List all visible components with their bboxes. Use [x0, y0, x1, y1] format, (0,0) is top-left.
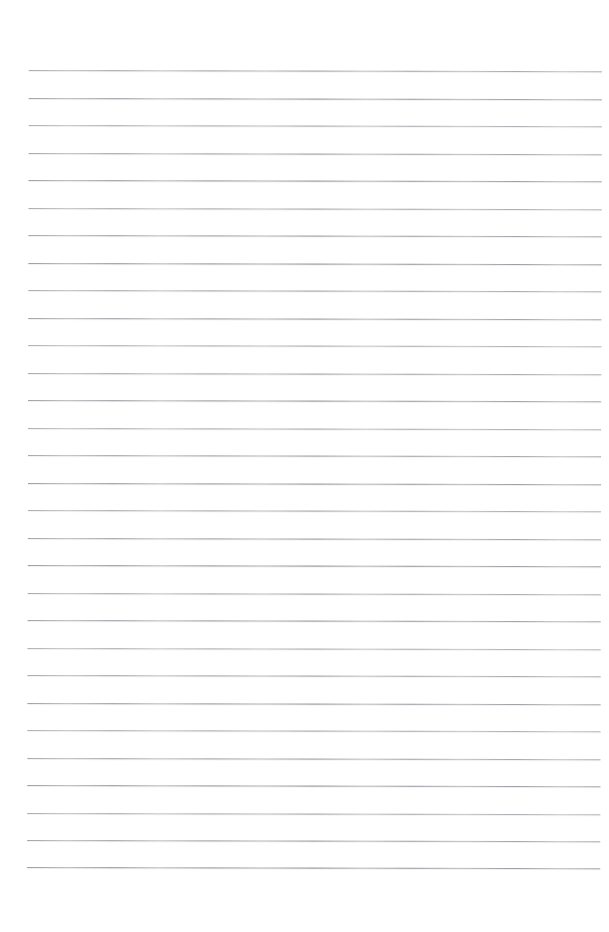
ruled-line [29, 180, 602, 182]
bottom-margin-blank-area [0, 868, 609, 932]
ruled-line [28, 318, 601, 320]
ruled-line [28, 510, 601, 512]
ruled-line [29, 208, 602, 210]
ruled-line [28, 538, 601, 540]
ruled-line [28, 373, 601, 375]
ruled-line [28, 455, 601, 457]
ruled-line [28, 400, 601, 402]
ruled-line [27, 840, 600, 842]
ruled-line [27, 758, 600, 760]
ruled-line [28, 593, 601, 595]
ruled-line [27, 730, 600, 732]
scanned-page [0, 0, 609, 932]
ruled-line [27, 785, 600, 787]
ruled-line [29, 98, 602, 100]
ruled-line [28, 263, 601, 265]
ruled-line [29, 235, 602, 237]
ruled-line [28, 483, 601, 485]
ruled-line [28, 648, 601, 650]
ruled-line [29, 125, 602, 127]
ruled-line [28, 428, 601, 430]
ruled-line [28, 620, 601, 622]
ruled-line [29, 153, 602, 155]
ruled-line [27, 813, 600, 815]
ruled-line [28, 703, 601, 705]
ruled-line [28, 565, 601, 567]
ruled-line [29, 70, 602, 72]
ruled-line [28, 675, 601, 677]
ruled-line [28, 345, 601, 347]
ruled-line [28, 290, 601, 292]
ruled-lines-area [0, 0, 609, 932]
